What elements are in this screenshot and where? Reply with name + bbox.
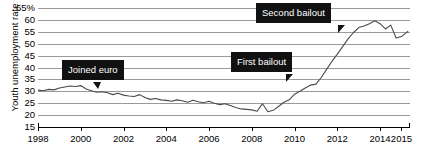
x-tick-mark — [124, 127, 125, 131]
youth-unemployment-chart: Youth unemployment rate 1520253035404550… — [0, 0, 421, 155]
x-tick-label: 2006 — [198, 133, 219, 144]
y-axis-title: Youth unemployment rate — [9, 0, 20, 124]
y-tick-label: 40 — [24, 63, 35, 72]
annotation-first-bailout-label: First bailout — [237, 56, 286, 67]
x-tick-label: 2004 — [156, 133, 177, 144]
annotation-joined-euro: Joined euro — [62, 60, 124, 80]
annotation-first-bailout: First bailout — [231, 52, 292, 72]
x-tick-label: 2014 — [369, 133, 390, 144]
y-tick-label: 65% — [16, 3, 35, 12]
x-tick-mark — [38, 127, 39, 131]
x-tick-mark — [380, 127, 381, 131]
x-tick-label: 2010 — [284, 133, 305, 144]
x-axis-right-cap — [409, 123, 410, 128]
annotation-joined-euro-label: Joined euro — [68, 64, 118, 75]
y-tick-label: 60 — [24, 15, 35, 24]
x-tick-mark — [337, 127, 338, 131]
y-tick-label: 15 — [24, 122, 35, 131]
annotation-joined-euro-pointer — [93, 82, 101, 89]
x-tick-mark — [209, 127, 210, 131]
y-tick-label: 25 — [24, 98, 35, 107]
y-tick-label: 30 — [24, 86, 35, 95]
y-tick-label: 50 — [24, 39, 35, 48]
y-tick-label: 45 — [24, 51, 35, 60]
x-tick-mark — [166, 127, 167, 131]
y-tick-label: 55 — [24, 27, 35, 36]
annotation-second-bailout-label: Second bailout — [262, 7, 325, 18]
x-tick-label: 2002 — [113, 133, 134, 144]
x-tick-label: 2015 — [391, 133, 412, 144]
y-tick-label: 35 — [24, 74, 35, 83]
x-tick-mark — [295, 127, 296, 131]
annotation-second-bailout: Second bailout — [256, 3, 331, 23]
x-tick-label: 2012 — [327, 133, 348, 144]
y-tick-label: 20 — [24, 110, 35, 119]
x-tick-label: 2008 — [241, 133, 262, 144]
x-tick-mark — [252, 127, 253, 131]
annotation-second-bailout-pointer — [338, 25, 345, 33]
x-axis-line — [38, 127, 410, 128]
x-tick-mark — [401, 127, 402, 131]
annotation-first-bailout-pointer — [286, 74, 293, 82]
x-tick-label: 1998 — [27, 133, 48, 144]
x-tick-mark — [81, 127, 82, 131]
x-tick-label: 2000 — [70, 133, 91, 144]
